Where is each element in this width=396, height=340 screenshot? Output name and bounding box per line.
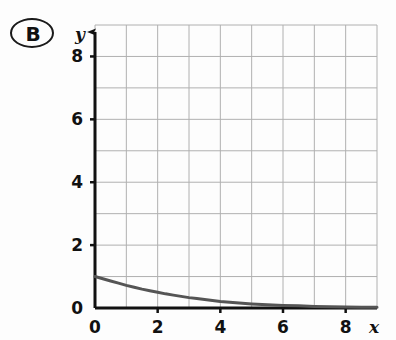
y-axis-label: y	[74, 24, 86, 44]
y-tick-label: 4	[71, 172, 83, 192]
x-tick-label: 2	[152, 317, 164, 337]
coordinate-plane: 02468 02468 y x	[0, 0, 396, 340]
data-curve	[95, 277, 377, 308]
y-tick-label: 2	[71, 235, 83, 255]
gridlines	[95, 25, 377, 308]
x-tick-label: 0	[89, 317, 101, 337]
x-tick-label: 4	[214, 317, 226, 337]
graph-figure: B 02468 02468 y x	[0, 0, 396, 340]
x-axis-label: x	[368, 317, 380, 337]
x-axis-tick-labels: 02468	[89, 317, 352, 337]
x-tick-label: 6	[277, 317, 289, 337]
x-tick-label: 8	[340, 317, 352, 337]
axes	[95, 32, 377, 308]
y-axis-tick-labels: 02468	[71, 46, 83, 318]
y-tick-label: 8	[71, 46, 83, 66]
y-tick-label: 6	[71, 109, 83, 129]
y-tick-label: 0	[71, 298, 83, 318]
